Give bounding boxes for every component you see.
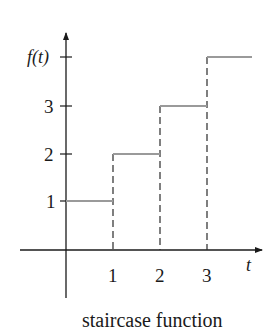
y-tick-label-2: 2 — [44, 144, 54, 165]
y-tick-label-3: 3 — [44, 96, 54, 117]
x-tick-label-1: 1 — [108, 265, 118, 286]
x-tick-label-3: 3 — [202, 265, 212, 286]
y-axis-label: f(t) — [27, 47, 49, 68]
y-tick-label-1: 1 — [46, 191, 56, 212]
step-segments — [66, 57, 252, 201]
x-axis-label: t — [246, 255, 252, 275]
chart-caption: staircase function — [82, 309, 223, 331]
x-tick-label-2: 2 — [155, 265, 165, 286]
staircase-chart: 1 2 3 f(t) 1 2 3 t staircase function — [0, 0, 280, 334]
